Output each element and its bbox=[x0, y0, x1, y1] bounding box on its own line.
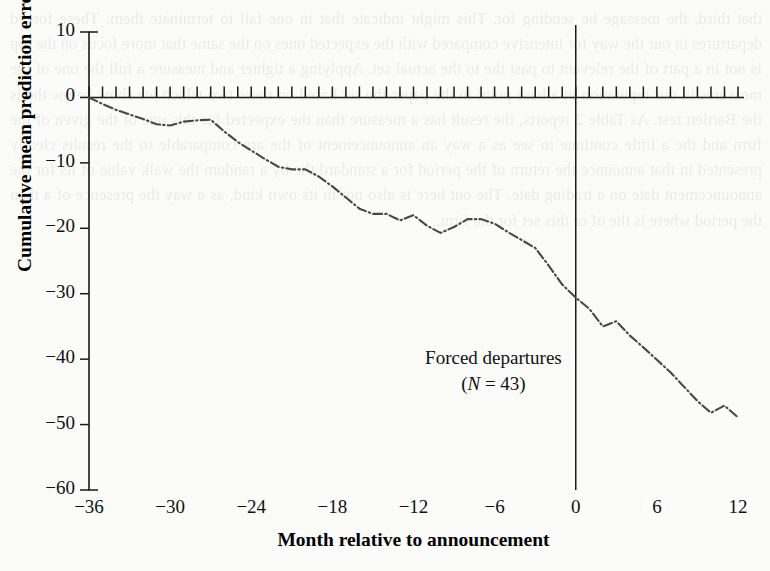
x-tick-label: −30 bbox=[155, 496, 185, 518]
y-axis-ticks bbox=[80, 32, 89, 490]
x-tick-label: −18 bbox=[318, 496, 348, 518]
y-tick-label: −10 bbox=[45, 150, 75, 172]
series-annotation: Forced departures (N = 43) bbox=[425, 345, 562, 396]
x-tick-label: −12 bbox=[399, 496, 429, 518]
x-axis-ticks bbox=[89, 86, 738, 97]
x-tick-label: −6 bbox=[485, 496, 505, 518]
y-tick-label: −60 bbox=[45, 477, 75, 499]
figure-canvas: that third, the message he sending for. … bbox=[0, 0, 770, 571]
annotation-line-2: (N = 43) bbox=[425, 371, 562, 397]
x-tick-label: 0 bbox=[571, 496, 581, 518]
y-tick-label: −30 bbox=[45, 281, 75, 303]
y-tick-label: −50 bbox=[45, 412, 75, 434]
y-tick-label: 0 bbox=[66, 84, 76, 106]
chart-plot-area bbox=[0, 0, 770, 571]
x-axis-title: Month relative to announcement bbox=[277, 529, 549, 551]
x-tick-label: −24 bbox=[236, 496, 266, 518]
annotation-n-symbol: N bbox=[467, 373, 480, 394]
x-tick-label: 12 bbox=[729, 496, 748, 518]
y-axis-title: Cumulative mean prediction error (%) bbox=[14, 0, 36, 272]
x-tick-label: −36 bbox=[74, 496, 104, 518]
y-tick-label: −40 bbox=[45, 346, 75, 368]
x-tick-label: 6 bbox=[652, 496, 662, 518]
annotation-n-value: = 43) bbox=[480, 373, 526, 394]
annotation-line-1: Forced departures bbox=[425, 345, 562, 371]
y-tick-label: −20 bbox=[45, 215, 75, 237]
y-tick-label: 10 bbox=[56, 19, 75, 41]
forced-departures-series-line bbox=[89, 97, 738, 417]
